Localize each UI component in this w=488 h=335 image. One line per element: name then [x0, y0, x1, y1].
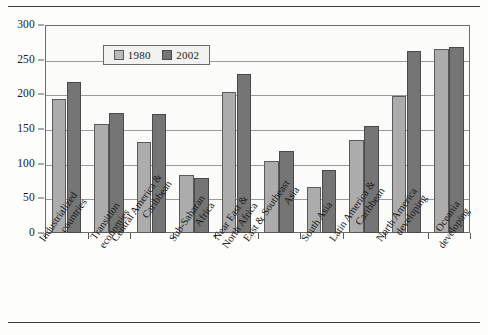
legend-item-1980: 1980 — [114, 50, 151, 61]
legend-item-2002: 2002 — [162, 50, 199, 61]
top-divider-rule — [8, 6, 480, 7]
legend: 1980 2002 — [103, 45, 210, 65]
legend-label-1980: 1980 — [128, 50, 151, 61]
y-axis-tick-mark — [38, 163, 44, 164]
x-axis-labels: IndustrializedcountriesTransitioneconomi… — [0, 233, 488, 333]
y-axis-tick-label: 150 — [17, 123, 35, 135]
y-axis: 050100150200250300 — [0, 0, 45, 258]
y-axis-tick-label: 100 — [17, 158, 35, 170]
legend-swatch-1980-icon — [114, 50, 124, 60]
y-axis-tick-label: 200 — [17, 89, 35, 101]
legend-swatch-2002-icon — [162, 50, 172, 60]
bar-1980-9 — [434, 49, 449, 233]
y-axis-tick-label: 250 — [17, 54, 35, 66]
chart-figure: 050100150200250300 Industrializedcountri… — [0, 0, 488, 335]
y-axis-tick-mark — [38, 94, 44, 95]
legend-label-2002: 2002 — [176, 50, 199, 61]
y-axis-tick-mark — [38, 129, 44, 130]
y-axis-tick-mark — [38, 198, 44, 199]
y-axis-tick-mark — [38, 25, 44, 26]
y-axis-tick-mark — [38, 59, 44, 60]
y-axis-tick-label: 50 — [23, 193, 35, 205]
y-axis-tick-label: 300 — [17, 19, 35, 31]
